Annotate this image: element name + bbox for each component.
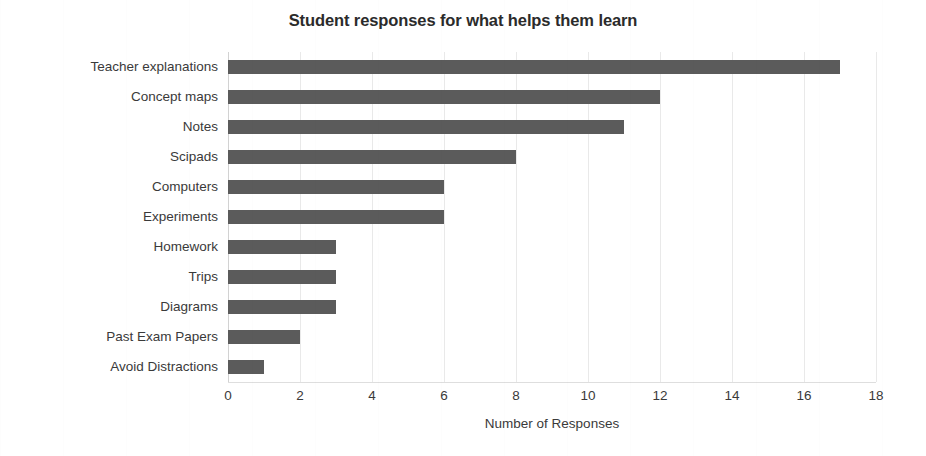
x-tick-label: 12 <box>640 388 680 403</box>
x-tick-label: 6 <box>424 388 464 403</box>
bar-row <box>228 142 876 172</box>
bar-row <box>228 352 876 382</box>
x-tick-label: 8 <box>496 388 536 403</box>
x-tick-label: 14 <box>712 388 752 403</box>
y-axis-category-labels: Teacher explanationsConcept mapsNotesSci… <box>12 52 218 382</box>
x-axis-line <box>228 382 876 383</box>
bar-chart: Student responses for what helps them le… <box>0 0 926 456</box>
bar-row <box>228 322 876 352</box>
gridline <box>876 52 877 382</box>
category-label: Diagrams <box>12 292 218 322</box>
bar-row <box>228 52 876 82</box>
category-label: Past Exam Papers <box>12 322 218 352</box>
bar-row <box>228 172 876 202</box>
bar <box>228 150 516 164</box>
bar <box>228 180 444 194</box>
x-tick-label: 2 <box>280 388 320 403</box>
bar <box>228 60 840 74</box>
bar <box>228 240 336 254</box>
bar-row <box>228 232 876 262</box>
bar <box>228 210 444 224</box>
category-label: Trips <box>12 262 218 292</box>
x-axis-title: Number of Responses <box>228 416 876 431</box>
bar <box>228 300 336 314</box>
bar-row <box>228 292 876 322</box>
category-label: Concept maps <box>12 82 218 112</box>
category-label: Homework <box>12 232 218 262</box>
category-label: Experiments <box>12 202 218 232</box>
x-tick-label: 0 <box>208 388 248 403</box>
bar <box>228 90 660 104</box>
bar <box>228 270 336 284</box>
bar-row <box>228 262 876 292</box>
category-label: Computers <box>12 172 218 202</box>
category-label: Teacher explanations <box>12 52 218 82</box>
x-axis-tick-labels: 024681012141618 <box>0 388 926 412</box>
bar-row <box>228 82 876 112</box>
bar <box>228 360 264 374</box>
plot-area <box>228 52 876 382</box>
category-label: Avoid Distractions <box>12 352 218 382</box>
x-tick-label: 16 <box>784 388 824 403</box>
x-tick-label: 4 <box>352 388 392 403</box>
bar <box>228 120 624 134</box>
category-label: Notes <box>12 112 218 142</box>
x-tick-label: 10 <box>568 388 608 403</box>
bar <box>228 330 300 344</box>
x-tick-label: 18 <box>856 388 896 403</box>
chart-title: Student responses for what helps them le… <box>0 11 926 30</box>
bar-row <box>228 112 876 142</box>
bar-row <box>228 202 876 232</box>
category-label: Scipads <box>12 142 218 172</box>
